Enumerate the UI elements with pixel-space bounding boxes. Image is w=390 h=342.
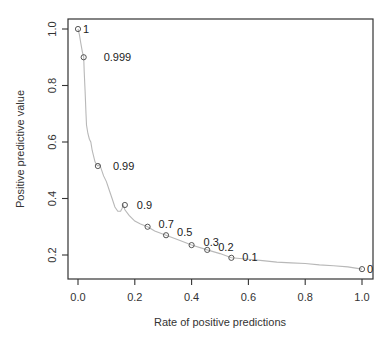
threshold-label: 0.3 xyxy=(204,236,219,248)
y-tick-label: 0.2 xyxy=(46,247,58,262)
ppv-chart: 0.00.20.40.60.81.0 0.20.40.60.81.0 10.99… xyxy=(0,0,390,342)
x-axis-label: Rate of positive predictions xyxy=(154,316,287,328)
threshold-label: 0.1 xyxy=(242,251,257,263)
threshold-label: 1 xyxy=(83,23,89,35)
x-axis: 0.00.20.40.60.81.0 xyxy=(70,279,369,303)
y-axis: 0.20.40.60.81.0 xyxy=(46,21,68,262)
x-tick-label: 1.0 xyxy=(354,291,369,303)
performance-curve-line xyxy=(78,29,362,269)
threshold-label: 0.99 xyxy=(113,160,134,172)
x-tick-label: 0.4 xyxy=(184,291,199,303)
threshold-label: 0.999 xyxy=(104,51,132,63)
x-tick-label: 0.8 xyxy=(298,291,313,303)
threshold-label: 0.2 xyxy=(218,241,233,253)
x-tick-label: 0.2 xyxy=(127,291,142,303)
threshold-label: 0.5 xyxy=(177,226,192,238)
y-tick-label: 1.0 xyxy=(46,21,58,36)
y-tick-label: 0.4 xyxy=(46,191,58,206)
x-tick-label: 0.0 xyxy=(70,291,85,303)
threshold-label: 0 xyxy=(367,263,373,275)
threshold-label: 0.9 xyxy=(137,199,152,211)
y-tick-label: 0.6 xyxy=(46,134,58,149)
threshold-label: 0.7 xyxy=(159,218,174,230)
y-tick-label: 0.8 xyxy=(46,78,58,93)
x-tick-label: 0.6 xyxy=(241,291,256,303)
y-axis-label: Positive predictive value xyxy=(14,90,26,208)
threshold-points: 10.9990.990.90.70.50.30.20.10 xyxy=(75,23,373,275)
